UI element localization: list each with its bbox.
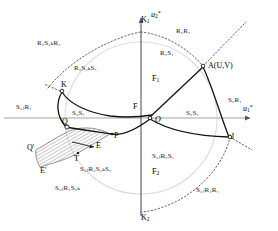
axis-label-u2: u2* bbox=[151, 10, 161, 20]
region-label-S2jR2R1: S₂ⱼR₂R₁ bbox=[196, 187, 219, 194]
point-label-J: J bbox=[231, 133, 234, 141]
wave-curve-diagram: u2* u1* K1 K2 F1 F2 A(U,V) K F O J Q Q' … bbox=[0, 0, 278, 231]
point-label-E-prime: E' bbox=[40, 167, 46, 175]
region-label-S2jR1S2k: S₂ⱼR₁S₂ₖ bbox=[55, 185, 80, 192]
point-label-F2: F2 bbox=[152, 168, 159, 177]
point-label-T: T bbox=[74, 155, 79, 163]
point-label-Q-prime: Q' bbox=[27, 144, 34, 152]
point-marker-P bbox=[111, 133, 114, 136]
point-label-E: E bbox=[96, 142, 101, 150]
region-label-S2R1: S₂R₁ bbox=[228, 97, 242, 104]
region-label-R2S1: R₂S₁ bbox=[160, 50, 174, 57]
diagram-canvas bbox=[0, 0, 278, 231]
point-label-A: A(U,V) bbox=[208, 62, 233, 70]
point-label-F1: F1 bbox=[152, 75, 159, 84]
region-label-R2S2kR1: R₂S₂ₖR₁ bbox=[37, 40, 61, 47]
region-label-S2jR1: S₂ⱼR₁ bbox=[16, 104, 32, 111]
dotted-ray-through-A bbox=[203, 22, 246, 66]
region-label-S2jR2S1: S₂ⱼR₂S₁ bbox=[152, 153, 174, 160]
region-label-S2S1-right: S₂S₁ bbox=[186, 110, 199, 117]
region-label-S2jR3S2kS1: S₂ⱼR₃S₂ₖS₁ bbox=[80, 166, 112, 173]
point-label-K1: K1 bbox=[141, 16, 150, 25]
axis-label-u1: u1* bbox=[243, 104, 253, 114]
point-marker-O bbox=[148, 116, 152, 120]
region-label-R2S2kS1: R₂S₂ₖS₁ bbox=[74, 65, 97, 72]
point-marker-K bbox=[60, 89, 64, 93]
point-label-P: P bbox=[114, 132, 118, 140]
point-label-O: O bbox=[155, 116, 161, 124]
point-label-K: K bbox=[61, 81, 67, 89]
point-label-K2: K2 bbox=[141, 214, 150, 223]
point-label-F: F bbox=[133, 103, 137, 111]
region-label-R2R1: R₂R₁ bbox=[176, 28, 191, 35]
point-marker-A bbox=[201, 64, 205, 68]
dotted-ray-past-K bbox=[44, 84, 60, 91]
point-label-Q: Q bbox=[62, 118, 68, 126]
region-label-S2S1-left: S₂S₁ bbox=[72, 110, 85, 117]
